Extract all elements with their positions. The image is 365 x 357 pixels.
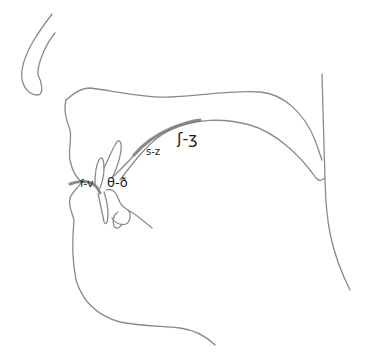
lower-gum [106, 189, 130, 224]
lower-gum-back [128, 210, 152, 228]
upper-gum [104, 141, 121, 178]
upper-lip-front [65, 100, 82, 182]
lower-lip-chin [69, 182, 215, 345]
pharynx-back-wall [322, 74, 350, 290]
label-dental: θ-ð [107, 176, 128, 189]
label-labiodental: f-v [80, 178, 93, 189]
upper-incisor [95, 158, 104, 188]
label-postalveolar: ʃ-ʒ [177, 131, 197, 147]
upper-lip-palate-outline [66, 88, 322, 160]
vocal-tract-diagram [0, 0, 365, 357]
lower-incisor [98, 192, 108, 224]
label-alveolar: s-z [146, 147, 160, 157]
lower-teeth-detail [113, 212, 122, 228]
nose-outline [22, 14, 55, 95]
